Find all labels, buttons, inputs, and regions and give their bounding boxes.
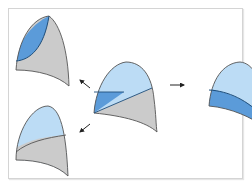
diagram-canvas	[0, 0, 252, 185]
shape-bottom-left	[0, 100, 80, 180]
arrow-up-left-icon	[80, 80, 90, 88]
shape-right	[200, 55, 252, 135]
shape-center	[80, 50, 170, 140]
shape-top-left	[0, 0, 100, 100]
arrow-down-left-icon	[80, 124, 90, 132]
